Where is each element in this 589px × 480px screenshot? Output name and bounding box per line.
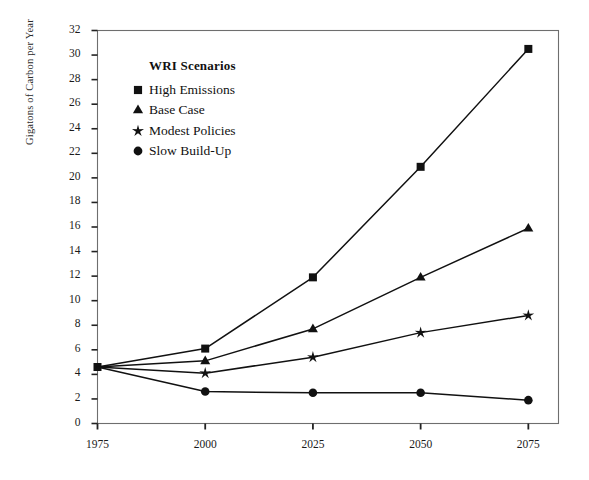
y-axis-tick-label: 26 [51, 96, 81, 108]
data-point-marker-circle [416, 388, 425, 397]
y-axis-tick-label: 24 [51, 121, 81, 133]
y-axis-tick-label: 2 [51, 391, 81, 403]
legend-entry-high-emissions: High Emissions [131, 80, 236, 101]
legend-entry-label: High Emissions [147, 80, 235, 101]
data-point-marker-star [522, 309, 534, 320]
series-base-case [98, 223, 534, 367]
y-axis-tick-label: 4 [51, 366, 81, 378]
series-slow-build-up [98, 367, 533, 404]
y-axis-tick-label: 22 [51, 145, 81, 157]
y-axis-tick-label: 8 [51, 317, 81, 329]
data-point-marker-circle [201, 387, 210, 396]
legend-title: WRI Scenarios [149, 56, 236, 77]
data-point-marker-square [524, 45, 532, 53]
triangle-marker-icon [131, 102, 147, 118]
star-marker-icon [131, 123, 147, 139]
data-point-marker-square [134, 86, 142, 94]
legend-entry-label: Slow Build-Up [147, 141, 231, 162]
data-point-marker-triangle [133, 105, 143, 114]
x-axis-tick-label: 2050 [391, 438, 451, 450]
data-point-marker-circle [134, 147, 143, 156]
plot-area [0, 0, 589, 480]
chart-figure: Gigatons of Carbon per Year 024681012141… [0, 0, 589, 480]
legend-entry-label: Base Case [147, 100, 205, 121]
y-axis-tick-label: 28 [51, 72, 81, 84]
data-point-marker-circle [309, 388, 318, 397]
series-line [98, 228, 529, 367]
y-axis-title: Gigatons of Carbon per Year [24, 0, 35, 145]
y-axis-tick-label: 30 [51, 47, 81, 59]
x-axis-tick-label: 2025 [283, 438, 343, 450]
data-point-marker-square [309, 273, 317, 281]
y-axis-tick-label: 6 [51, 342, 81, 354]
x-axis-tick-label: 2075 [498, 438, 558, 450]
y-axis-tick-label: 32 [51, 23, 81, 35]
legend-entry-slow-build-up: Slow Build-Up [131, 141, 236, 162]
y-axis-tick-label: 14 [51, 244, 81, 256]
data-point-marker-square [417, 163, 425, 171]
y-axis-tick-label: 18 [51, 194, 81, 206]
y-axis-tick-label: 16 [51, 219, 81, 231]
x-axis-tick-label: 1975 [68, 438, 128, 450]
legend-entries: High EmissionsBase CaseModest PoliciesSl… [131, 80, 236, 162]
y-axis-tick-label: 10 [51, 293, 81, 305]
legend-entry-label: Modest Policies [147, 121, 236, 142]
y-axis-tick-label: 0 [51, 416, 81, 428]
data-point-marker-star [132, 124, 144, 135]
data-point-marker-square [201, 345, 209, 353]
data-point-marker-triangle [523, 223, 533, 232]
data-point-marker-circle [524, 396, 533, 405]
square-marker-icon [131, 82, 147, 98]
y-axis-tick-label: 20 [51, 170, 81, 182]
circle-marker-icon [131, 143, 147, 159]
chart-legend: WRI Scenarios High EmissionsBase CaseMod… [131, 56, 236, 162]
legend-entry-base-case: Base Case [131, 100, 236, 121]
x-axis-tick-label: 2000 [175, 438, 235, 450]
series-modest-policies [98, 309, 535, 378]
y-axis-tick-label: 12 [51, 268, 81, 280]
legend-entry-modest-policies: Modest Policies [131, 121, 236, 142]
